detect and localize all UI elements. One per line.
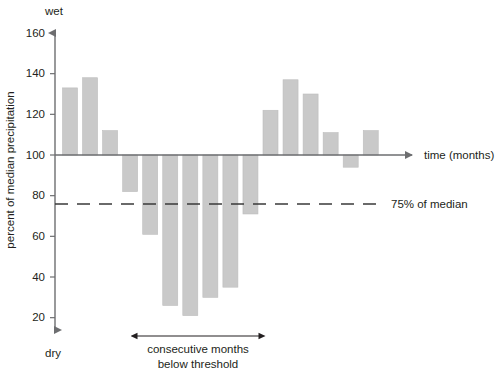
precipitation-drought-chart: 20406080100120140160 wet dry percent of …	[0, 0, 498, 374]
y-axis-tick-label: 140	[26, 67, 45, 79]
chart-text-layer: 20406080100120140160 wet dry percent of …	[0, 0, 498, 374]
axis-pole-label-dry: dry	[45, 347, 61, 359]
drought-annotation-line1: consecutive months	[147, 343, 249, 355]
y-axis-tick-label: 40	[32, 271, 45, 283]
drought-annotation-line2: below threshold	[158, 358, 239, 370]
y-axis-tick-label: 160	[26, 27, 45, 39]
x-axis-title: time (months)	[424, 149, 494, 161]
threshold-label: 75% of median	[391, 198, 468, 210]
y-axis-tick-label: 100	[26, 149, 45, 161]
axis-pole-label-wet: wet	[44, 5, 64, 17]
y-axis-title: percent of median precipitation	[4, 91, 16, 248]
y-axis-tick-label: 80	[32, 189, 45, 201]
y-axis-tick-label: 60	[32, 230, 45, 242]
y-axis-tick-labels: 20406080100120140160	[26, 27, 45, 324]
y-axis-tick-label: 20	[32, 311, 45, 323]
y-axis-tick-label: 120	[26, 108, 45, 120]
